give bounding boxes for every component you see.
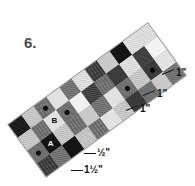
- patch-label-b: B: [51, 117, 57, 125]
- patch-label-a: A: [48, 139, 54, 147]
- callout-inch-top: 1": [176, 68, 186, 78]
- callout-inch-mid: 1": [157, 89, 167, 99]
- callout-half-inch: ½": [97, 148, 110, 158]
- leader-line-half-inch: [84, 153, 96, 154]
- problem-number: 6.: [24, 35, 37, 50]
- callout-inch-low: 1": [140, 104, 150, 114]
- callout-one-half-inch: 1½": [84, 165, 103, 175]
- figure-canvas: 6. B: [0, 0, 195, 186]
- leader-line-one-half-inch: [71, 170, 83, 171]
